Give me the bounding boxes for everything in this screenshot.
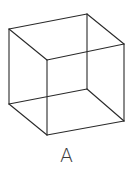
cube-edge-back_top_right-front_top_right (87, 14, 124, 44)
cube-edge-back_bottom_right-front_bottom_right (87, 89, 124, 121)
cube-edge-front_bottom_left-front_bottom_right (47, 121, 124, 135)
figure-label: A (0, 144, 133, 166)
cube-edge-front_top_left-front_top_right (47, 44, 124, 60)
cube-edge-back_bottom_left-front_bottom_left (9, 104, 47, 135)
cube-edges (9, 14, 124, 135)
cube-edge-back_bottom_left-back_bottom_right (9, 89, 87, 104)
cube-edge-back_top_left-front_top_left (9, 29, 47, 60)
cube-edge-back_top_left-back_top_right (9, 14, 87, 29)
